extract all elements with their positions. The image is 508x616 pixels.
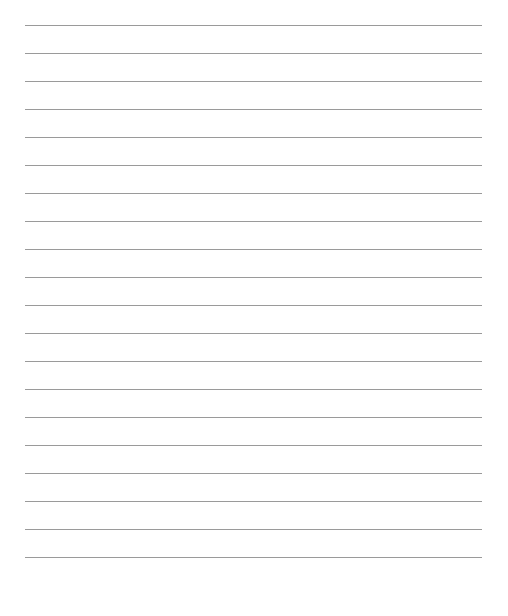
ruled-line <box>25 221 482 222</box>
ruled-line <box>25 529 482 530</box>
ruled-line <box>25 165 482 166</box>
ruled-line <box>25 417 482 418</box>
ruled-line <box>25 557 482 558</box>
ruled-line <box>25 193 482 194</box>
ruled-line <box>25 277 482 278</box>
ruled-line <box>25 305 482 306</box>
ruled-line <box>25 473 482 474</box>
ruled-line <box>25 25 482 26</box>
ruled-line <box>25 53 482 54</box>
ruled-line <box>25 445 482 446</box>
lined-paper-page <box>0 0 508 616</box>
ruled-line <box>25 137 482 138</box>
ruled-line <box>25 389 482 390</box>
ruled-line <box>25 501 482 502</box>
ruled-line <box>25 361 482 362</box>
ruled-line <box>25 249 482 250</box>
ruled-line <box>25 109 482 110</box>
ruled-line <box>25 333 482 334</box>
ruled-line <box>25 81 482 82</box>
